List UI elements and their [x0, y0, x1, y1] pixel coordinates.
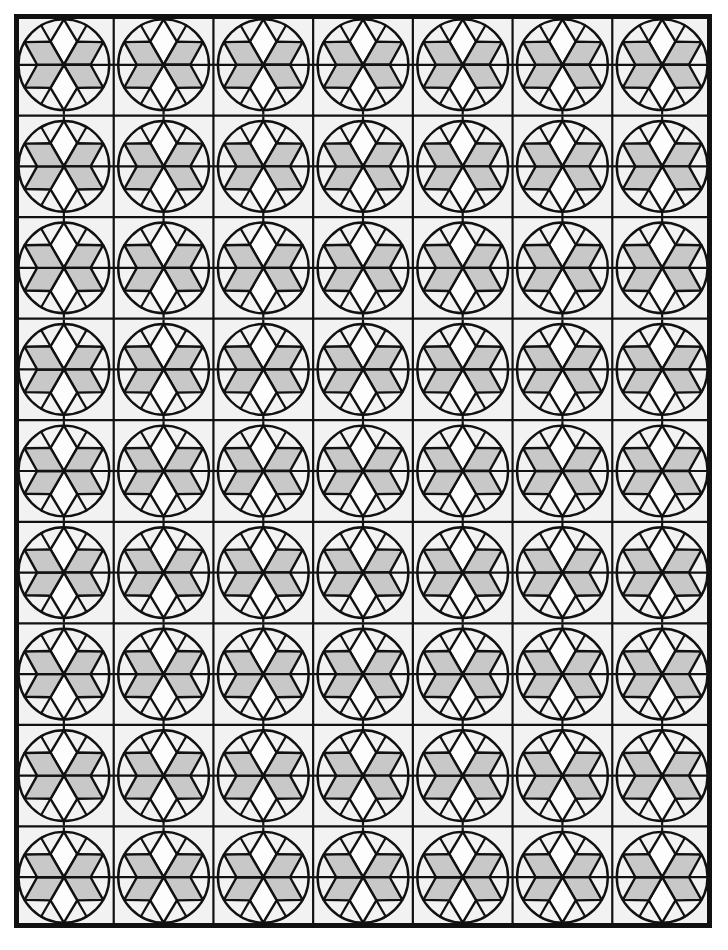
- pattern-canvas: [0, 0, 728, 950]
- pattern-figure: [0, 0, 728, 950]
